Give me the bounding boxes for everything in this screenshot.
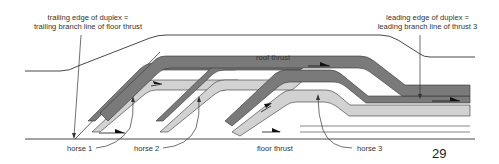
floor-thrust-label: floor thrust	[257, 144, 293, 153]
leading-edge-label: leading edge of duplex = leading branch …	[370, 13, 485, 31]
horse-3-label: horse 3	[357, 144, 382, 153]
leading-edge-label-line2: leading branch line of thrust 3	[370, 22, 485, 31]
trailing-edge-label: trailing edge of duplex = trailing branc…	[8, 13, 168, 31]
trailing-edge-label-line2: trailing branch line of floor thrust	[8, 22, 168, 31]
trailing-edge-label-line1: trailing edge of duplex =	[8, 13, 168, 22]
horse-1-label: horse 1	[67, 144, 92, 153]
roof-thrust-label: roof thrust	[256, 53, 290, 62]
page-number: 29	[432, 146, 446, 161]
trailing-edge-pointer	[74, 35, 81, 137]
leading-edge-label-line1: leading edge of duplex =	[370, 13, 485, 22]
floor-thrust-arrow-2	[262, 128, 281, 132]
horse-2-label: horse 2	[134, 144, 159, 153]
